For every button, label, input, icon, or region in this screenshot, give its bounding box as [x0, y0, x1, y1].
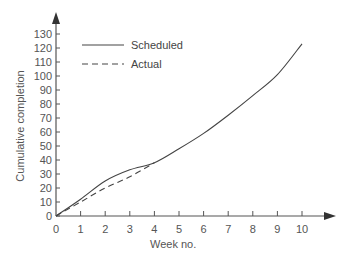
series-actual-line [56, 163, 154, 216]
y-tick-label: 90 [40, 84, 52, 96]
y-tick-label: 110 [34, 56, 52, 68]
x-tick-label: 0 [53, 223, 59, 235]
x-tick-label: 4 [151, 223, 157, 235]
y-tick-label: 80 [40, 98, 52, 110]
x-tick-label: 9 [274, 223, 280, 235]
y-tick-label: 130 [34, 28, 52, 40]
y-axis-arrow-icon [52, 12, 60, 24]
x-tick-label: 3 [127, 223, 133, 235]
legend: ScheduledActual [82, 39, 183, 70]
x-tick-label: 10 [296, 223, 308, 235]
x-tick-label: 6 [201, 223, 207, 235]
x-axis-arrow-icon [324, 212, 336, 220]
y-tick-label: 0 [46, 210, 52, 222]
legend-label-actual: Actual [131, 58, 162, 70]
x-tick-label: 1 [78, 223, 84, 235]
y-axis-title: Cumulative completion [14, 70, 26, 181]
y-tick-label: 20 [40, 182, 52, 194]
y-tick-label: 50 [40, 140, 52, 152]
x-tick-label: 5 [176, 223, 182, 235]
line-chart: 0102030405060708090100110120130 01234567… [0, 0, 344, 263]
x-tick-label: 2 [102, 223, 108, 235]
y-tick-label: 40 [40, 154, 52, 166]
x-axis-title: Week no. [150, 238, 196, 250]
y-tick-label: 10 [40, 196, 52, 208]
legend-label-scheduled: Scheduled [131, 39, 183, 51]
x-tick-label: 8 [250, 223, 256, 235]
x-axis: 012345678910 [53, 211, 336, 235]
y-axis: 0102030405060708090100110120130 [34, 12, 60, 222]
plot-series [56, 44, 302, 216]
y-tick-label: 70 [40, 112, 52, 124]
y-tick-label: 100 [34, 70, 52, 82]
series-scheduled-line [56, 44, 302, 216]
y-tick-label: 30 [40, 168, 52, 180]
y-tick-label: 120 [34, 42, 52, 54]
y-tick-label: 60 [40, 126, 52, 138]
x-tick-label: 7 [225, 223, 231, 235]
